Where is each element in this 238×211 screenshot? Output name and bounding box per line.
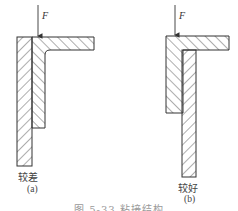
- panel-a-outer-plate: [17, 37, 32, 166]
- panel-b-quality-label: 较好: [178, 180, 198, 195]
- figure-caption: 图 5-33 粘接结构: [0, 201, 238, 211]
- panel-a-force-label: F: [42, 10, 48, 21]
- panel-b-force-label: F: [179, 10, 185, 21]
- panel-a-l-bracket: [32, 37, 94, 128]
- panel-a-label: (a): [27, 184, 38, 194]
- panel-b-long-plate: [182, 50, 196, 177]
- panel-a-joint: [17, 5, 94, 166]
- panel-b-joint: [166, 5, 229, 177]
- panel-a-quality-label: 较差: [18, 169, 38, 184]
- panel-b-l-bracket: [166, 36, 229, 113]
